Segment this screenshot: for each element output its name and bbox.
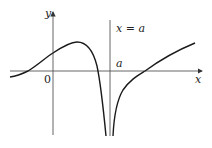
curve-right-branch [113,43,195,136]
curve-left-branch [10,42,106,136]
y-axis-label: y [44,7,52,20]
origin-label: 0 [44,73,51,86]
asymptote-label: x = a [116,22,145,35]
x-axis-label: x [195,73,202,86]
graph-figure: y x 0 x = a a [0,0,212,148]
a-tick-label: a [116,57,123,70]
